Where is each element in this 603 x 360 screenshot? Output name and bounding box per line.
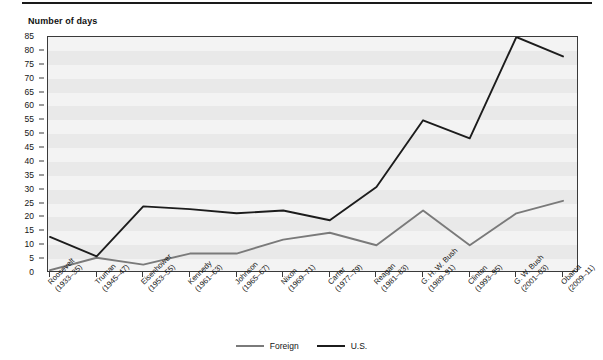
series-lines — [48, 37, 578, 272]
y-tick-label: 65 — [25, 87, 34, 96]
y-tick-mark — [39, 244, 44, 245]
x-tick-mark — [189, 272, 190, 277]
y-tick-label: 55 — [25, 115, 34, 124]
legend-line-icon — [236, 345, 264, 347]
y-tick-label: 35 — [25, 171, 34, 180]
top-rule — [22, 2, 592, 4]
legend-line-icon — [317, 345, 345, 347]
plot-area — [47, 36, 578, 272]
x-tick-mark — [96, 272, 97, 277]
x-tick-mark — [49, 272, 50, 277]
y-tick-mark — [39, 49, 44, 50]
x-tick-mark — [422, 272, 423, 277]
x-tick-mark — [282, 272, 283, 277]
y-tick-mark — [39, 160, 44, 161]
y-tick-label: 20 — [25, 212, 34, 221]
y-tick-label: 85 — [25, 32, 34, 41]
y-tick-mark — [39, 119, 44, 120]
y-tick-label: 50 — [25, 129, 34, 138]
y-tick-mark — [39, 174, 44, 175]
y-tick-label: 5 — [29, 254, 34, 263]
x-tick-mark — [562, 272, 563, 277]
y-tick-mark — [39, 258, 44, 259]
legend-item-foreign[interactable]: Foreign — [236, 341, 299, 351]
y-tick-label: 15 — [25, 226, 34, 235]
x-tick-mark — [142, 272, 143, 277]
y-tick-label: 80 — [25, 46, 34, 55]
series-line-foreign — [50, 201, 563, 270]
x-tick-mark — [375, 272, 376, 277]
y-tick-mark — [39, 202, 44, 203]
y-tick-mark — [39, 147, 44, 148]
y-tick-label: 40 — [25, 157, 34, 166]
x-tick-mark — [329, 272, 330, 277]
y-axis-title: Number of days — [28, 16, 97, 26]
y-tick-mark — [39, 188, 44, 189]
y-tick-label: 10 — [25, 240, 34, 249]
y-tick-label: 30 — [25, 184, 34, 193]
series-line-u-s — [50, 37, 563, 256]
y-axis: 0510152025303540455055606570758085 — [0, 36, 44, 272]
y-tick-mark — [39, 91, 44, 92]
y-tick-mark — [39, 77, 44, 78]
y-tick-label: 0 — [29, 268, 34, 277]
legend-item-u-s[interactable]: U.S. — [317, 341, 368, 351]
y-tick-mark — [39, 63, 44, 64]
chart-legend: ForeignU.S. — [0, 338, 603, 354]
y-tick-label: 70 — [25, 73, 34, 82]
y-tick-mark — [39, 230, 44, 231]
y-tick-label: 25 — [25, 198, 34, 207]
x-tick-mark — [469, 272, 470, 277]
x-axis-ticks — [47, 272, 578, 278]
chart-figure: Number of days 0510152025303540455055606… — [0, 0, 603, 360]
x-tick-mark — [236, 272, 237, 277]
y-tick-mark — [39, 133, 44, 134]
y-tick-label: 75 — [25, 60, 34, 69]
legend-label: Foreign — [270, 341, 299, 351]
x-tick-mark — [515, 272, 516, 277]
y-tick-mark — [39, 105, 44, 106]
y-tick-mark — [39, 216, 44, 217]
y-tick-label: 60 — [25, 101, 34, 110]
y-tick-label: 45 — [25, 143, 34, 152]
legend-label: U.S. — [351, 341, 368, 351]
